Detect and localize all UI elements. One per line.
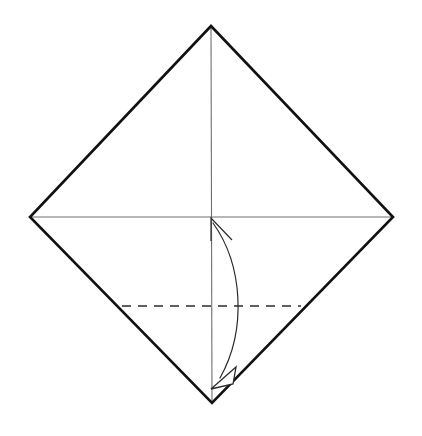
origami-canvas <box>0 0 422 436</box>
origami-diagram <box>0 0 422 436</box>
